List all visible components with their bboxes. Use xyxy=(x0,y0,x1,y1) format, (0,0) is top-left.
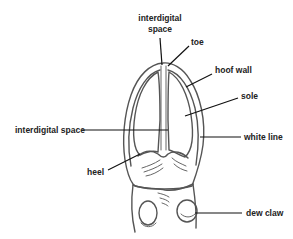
label-sole: sole xyxy=(241,91,258,101)
label-dew-claw: dew claw xyxy=(246,208,284,218)
hoof-drawing xyxy=(124,63,204,232)
leg-wrinkle-3 xyxy=(162,203,168,206)
label-hoof-wall: hoof wall xyxy=(215,65,252,75)
dew-claw-right xyxy=(177,200,197,222)
lower-leg-left xyxy=(132,185,135,232)
leader-interdigital-top xyxy=(160,38,162,65)
label-interdigital-top-2: space xyxy=(148,24,172,34)
label-heel: heel xyxy=(87,167,104,177)
left-claw-sole xyxy=(134,72,160,155)
label-interdigital-top-1: interdigital xyxy=(138,13,181,23)
leader-toe xyxy=(168,46,189,66)
heel-wrinkle-3 xyxy=(146,168,163,176)
heel-wrinkle-4 xyxy=(172,158,186,166)
leg-wrinkle-2 xyxy=(160,198,169,202)
hoof-diagram: interdigital space toe hoof wall sole in… xyxy=(0,0,293,239)
labels: interdigital space toe hoof wall sole in… xyxy=(15,13,284,218)
leg-wrinkle-1 xyxy=(158,193,169,197)
label-toe: toe xyxy=(191,37,204,47)
dew-claw-right-inner xyxy=(181,214,195,217)
label-interdigital-left: interdigital space xyxy=(15,125,85,135)
dew-claw-left xyxy=(139,201,157,225)
heel-crease xyxy=(133,184,193,190)
label-white-line: white line xyxy=(243,132,283,142)
